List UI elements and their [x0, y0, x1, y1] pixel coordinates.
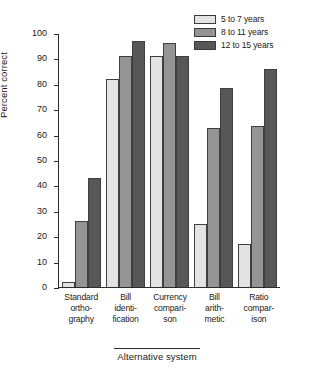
x-axis-tick-label-line: son — [148, 314, 192, 325]
legend-item-5-to-7-years: 5 to 7 years — [194, 14, 273, 25]
y-axis-title: Percent correct — [0, 52, 9, 118]
y-axis-tick-label: 90 — [25, 53, 47, 64]
y-axis-tick-label: 30 — [25, 206, 47, 217]
x-axis-tick-label: Standardortho-graphy — [59, 292, 103, 325]
bar-group — [147, 34, 191, 287]
x-axis-tick-label: Currencycompari-son — [148, 292, 192, 325]
bar-group — [192, 34, 236, 287]
x-axis-tick-label-line: arith- — [192, 303, 236, 314]
y-axis-tick-label: 60 — [25, 130, 47, 141]
bar[interactable] — [194, 224, 207, 288]
x-axis-tick-label-line: Bill — [103, 292, 147, 303]
bar[interactable] — [132, 41, 145, 287]
x-axis-tick-label-line: fication — [103, 314, 147, 325]
bar[interactable] — [176, 56, 189, 287]
y-axis-tick-label: 80 — [25, 79, 47, 90]
x-axis-title-group: Alternative system — [0, 348, 314, 362]
x-axis-title: Alternative system — [0, 351, 314, 362]
bar[interactable] — [264, 69, 277, 287]
bar-group — [103, 34, 147, 287]
x-axis-tick-label-line: Currency — [148, 292, 192, 303]
y-axis-tick-label: 70 — [25, 104, 47, 115]
bar[interactable] — [163, 43, 176, 287]
x-axis-tick-label-line: Bill — [192, 292, 236, 303]
x-axis-tick-label-line: Standard — [59, 292, 103, 303]
y-axis-tick-label: 40 — [25, 180, 47, 191]
bar[interactable] — [238, 244, 251, 287]
bar[interactable] — [220, 88, 233, 287]
x-axis-tick-label-line: compari- — [148, 303, 192, 314]
y-axis-tick-label: 50 — [25, 155, 47, 166]
x-axis-tick-label-line: compar- — [237, 303, 281, 314]
x-axis-tick-label-line: Ratio — [237, 292, 281, 303]
x-axis-tick-label-line: metic — [192, 314, 236, 325]
y-axis-tick: 0 — [54, 288, 59, 289]
bar[interactable] — [150, 56, 163, 287]
bar[interactable] — [119, 56, 132, 287]
x-axis-tick-label-line: ison — [237, 314, 281, 325]
bar[interactable] — [106, 79, 119, 287]
bar[interactable] — [75, 221, 88, 287]
y-axis-tick-label: 0 — [25, 282, 47, 293]
bar-group — [236, 34, 280, 287]
bar[interactable] — [207, 128, 220, 287]
bar-group — [59, 34, 103, 287]
bar[interactable] — [251, 126, 264, 287]
x-axis-title-rule — [114, 348, 200, 349]
x-axis-tick-label: Billarith-metic — [192, 292, 236, 325]
y-axis-tick-label: 20 — [25, 231, 47, 242]
bar[interactable] — [62, 282, 75, 287]
x-axis-line — [58, 287, 280, 288]
x-axis-tick-label-line: identi- — [103, 303, 147, 314]
plot-area: 1009080706050403020100 — [58, 34, 280, 288]
x-axis-tick-label-line: ortho- — [59, 303, 103, 314]
legend-swatch-icon — [194, 15, 216, 24]
bar[interactable] — [88, 178, 101, 287]
x-axis-tick-label: Billidenti-fication — [103, 292, 147, 325]
x-axis-tick-labels: Standardortho-graphyBillidenti-ficationC… — [59, 292, 281, 325]
x-axis-tick-label-line: graphy — [59, 314, 103, 325]
y-axis-tick-label: 10 — [25, 257, 47, 268]
legend-label: 5 to 7 years — [221, 15, 264, 24]
bar-chart-figure: 5 to 7 years 8 to 11 years 12 to 15 year… — [0, 0, 314, 379]
bar-groups — [59, 34, 280, 287]
x-axis-tick-label: Ratiocompar-ison — [237, 292, 281, 325]
y-axis-tick-label: 100 — [25, 28, 47, 39]
